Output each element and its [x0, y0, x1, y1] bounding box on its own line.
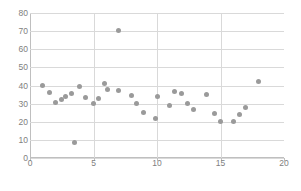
- y-axis-tick-label: 30: [2, 99, 28, 108]
- data-point: [204, 92, 209, 97]
- data-point: [237, 112, 242, 117]
- data-point: [256, 79, 261, 84]
- data-point: [116, 28, 121, 33]
- y-axis-tick-label: 80: [2, 9, 28, 18]
- data-point: [105, 87, 110, 92]
- data-point: [141, 110, 146, 115]
- data-point: [72, 140, 77, 145]
- data-point: [185, 101, 190, 106]
- y-axis-tick-label: 10: [2, 136, 28, 145]
- data-point: [129, 93, 134, 98]
- data-point: [96, 96, 101, 101]
- data-point: [179, 91, 184, 96]
- y-axis-tick-label: 40: [2, 81, 28, 90]
- y-axis-tick-label: 60: [2, 45, 28, 54]
- data-point: [172, 89, 177, 94]
- y-axis-tick-label: 50: [2, 63, 28, 72]
- data-point: [69, 91, 74, 96]
- plot-area: [30, 13, 284, 158]
- y-axis-tick-labels: 01020304050607080: [0, 13, 28, 158]
- data-point: [116, 88, 121, 93]
- gridline-vertical: [157, 13, 158, 158]
- data-point: [63, 94, 68, 99]
- y-axis-tick-label: 70: [2, 27, 28, 36]
- x-axis-tick-label: 10: [145, 159, 169, 168]
- data-point: [91, 101, 96, 106]
- data-point: [40, 83, 45, 88]
- data-point: [155, 94, 160, 99]
- data-point: [167, 103, 172, 108]
- y-axis-tick-label: 20: [2, 118, 28, 127]
- data-point: [134, 101, 139, 106]
- x-axis-tick-label: 0: [18, 159, 42, 168]
- gridline-vertical: [94, 13, 95, 158]
- x-axis-tick-label: 5: [82, 159, 106, 168]
- data-point: [212, 111, 217, 116]
- data-point: [231, 119, 236, 124]
- data-point: [83, 95, 88, 100]
- scatter-chart: 01020304050607080 05101520: [0, 0, 301, 191]
- gridline-vertical: [221, 13, 222, 158]
- x-axis-tick-label: 15: [209, 159, 233, 168]
- data-point: [218, 119, 223, 124]
- x-axis-tick-labels: 05101520: [30, 159, 284, 179]
- data-point: [47, 90, 52, 95]
- data-point: [191, 107, 196, 112]
- x-axis-tick-label: 20: [272, 159, 296, 168]
- data-point: [77, 84, 82, 89]
- data-point: [243, 105, 248, 110]
